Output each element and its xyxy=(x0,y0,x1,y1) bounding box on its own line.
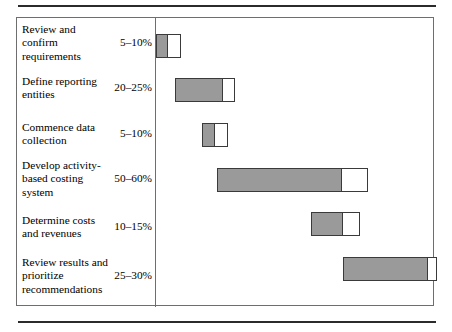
gantt-bar-solid-segment xyxy=(217,168,342,192)
gantt-bar-solid-segment xyxy=(156,34,168,58)
task-row-2: Commence data collection 5–10% xyxy=(17,117,155,151)
gantt-bar-2 xyxy=(202,123,228,147)
gantt-bar-open-segment xyxy=(168,34,180,58)
task-row-4: Determine costs and revenues 10–15% xyxy=(17,210,155,244)
task-percent: 5–10% xyxy=(120,36,152,49)
gantt-bar-open-segment xyxy=(343,212,360,236)
gantt-bar-solid-segment xyxy=(311,212,343,236)
task-row-3: Develop activity-based costing system 50… xyxy=(17,156,155,202)
task-row-1: Define reporting entities 20–25% xyxy=(17,71,155,105)
task-name: Determine costs and revenues xyxy=(22,214,110,241)
gantt-bar-open-segment xyxy=(428,257,437,281)
top-rule xyxy=(18,5,436,7)
gantt-bar-1 xyxy=(175,78,235,102)
gantt-chart-figure: Review and confirm requirements 5–10% De… xyxy=(0,0,452,332)
task-name: Commence data collection xyxy=(22,121,110,148)
gantt-plot-area xyxy=(156,18,433,305)
gantt-bar-open-segment xyxy=(342,168,368,192)
gantt-bar-5 xyxy=(343,257,437,281)
gantt-bar-3 xyxy=(217,168,368,192)
task-name: Review results and prioritize recommenda… xyxy=(22,256,110,296)
task-percent: 25–30% xyxy=(114,269,152,282)
task-label-column: Review and confirm requirements 5–10% De… xyxy=(17,18,155,305)
gantt-bar-open-segment xyxy=(215,123,228,147)
task-row-5: Review results and prioritize recommenda… xyxy=(17,253,155,299)
gantt-bar-0 xyxy=(156,34,181,58)
gantt-bar-solid-segment xyxy=(202,123,215,147)
bottom-rule xyxy=(18,321,436,323)
gantt-bar-open-segment xyxy=(223,78,235,102)
task-name: Review and confirm requirements xyxy=(22,23,110,63)
task-row-0: Review and confirm requirements 5–10% xyxy=(17,20,155,66)
task-percent: 10–15% xyxy=(114,220,152,233)
task-percent: 20–25% xyxy=(114,81,152,94)
task-percent: 5–10% xyxy=(120,127,152,140)
task-name: Develop activity-based costing system xyxy=(22,159,110,199)
gantt-bar-solid-segment xyxy=(175,78,223,102)
task-name: Define reporting entities xyxy=(22,75,110,102)
task-percent: 50–60% xyxy=(114,172,152,185)
gantt-bar-solid-segment xyxy=(343,257,428,281)
gantt-bar-4 xyxy=(311,212,360,236)
